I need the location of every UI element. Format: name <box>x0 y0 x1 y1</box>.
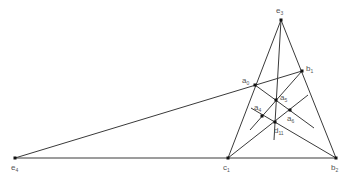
point-e4 <box>14 157 17 160</box>
line-segments <box>15 20 336 158</box>
point-c1 <box>227 157 230 160</box>
label-a6: a6 <box>287 115 294 125</box>
label-b1: b1 <box>306 65 313 75</box>
point-a6 <box>289 109 292 112</box>
label-d11: d11 <box>274 127 284 137</box>
point-b2 <box>335 157 338 160</box>
geometry-diagram <box>0 0 352 179</box>
point-a4 <box>261 115 264 118</box>
label-a0: a0 <box>242 77 249 87</box>
label-e4: e4 <box>11 164 18 174</box>
point-a0 <box>254 84 257 87</box>
label-a4: a4 <box>254 104 261 114</box>
point-e3 <box>280 19 283 22</box>
label-c1: c1 <box>223 164 230 174</box>
label-a5: a5 <box>280 94 287 104</box>
line-segment <box>281 20 336 158</box>
label-e3: e3 <box>276 7 283 17</box>
point-b1 <box>301 70 304 73</box>
point-a5 <box>275 99 278 102</box>
line-segment <box>15 71 302 158</box>
label-b2: b2 <box>331 164 338 174</box>
point-d11 <box>274 121 277 124</box>
